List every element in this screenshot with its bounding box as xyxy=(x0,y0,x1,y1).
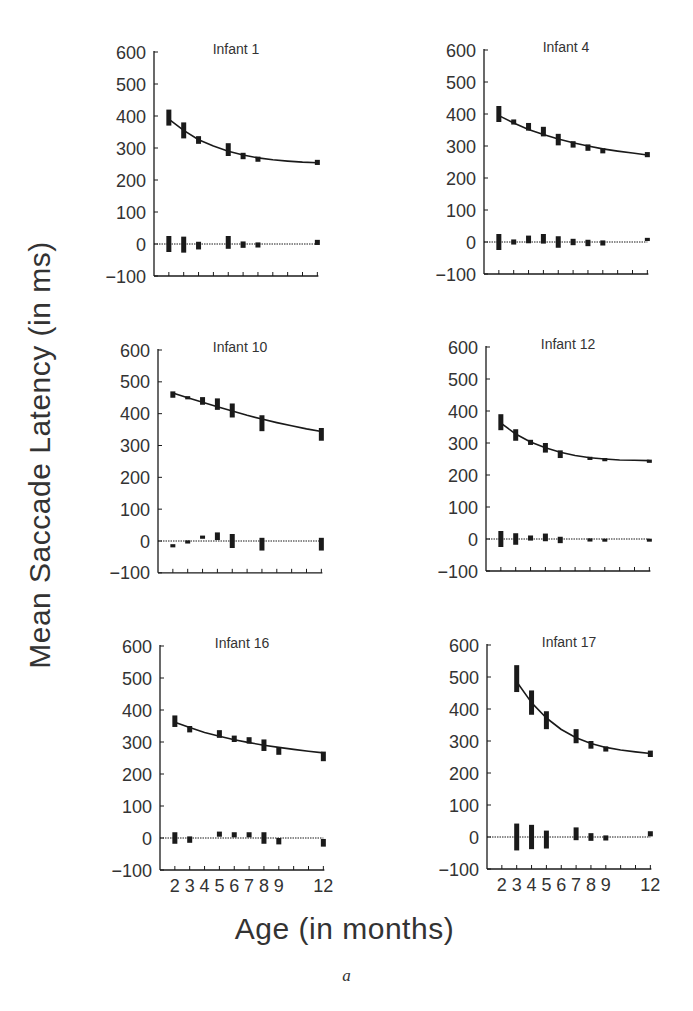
y-tick-label: −100 xyxy=(109,563,150,583)
y-tick-label: 0 xyxy=(140,532,150,552)
residual-error-bar xyxy=(529,825,534,849)
residual-error-bar xyxy=(528,535,533,540)
residual-error-bar xyxy=(217,832,222,837)
y-tick-label: 200 xyxy=(116,171,146,191)
residual-error-bar xyxy=(319,538,324,551)
y-tick-label: 100 xyxy=(449,796,479,816)
residual-error-bar xyxy=(232,832,237,837)
x-tick-label: 3 xyxy=(512,875,522,895)
observed-error-bar xyxy=(647,460,652,463)
observed-error-bar xyxy=(585,144,590,150)
residual-error-bar xyxy=(571,239,576,245)
residual-error-bar xyxy=(226,236,231,249)
residual-error-bar xyxy=(230,534,235,548)
observed-error-bar xyxy=(571,141,576,147)
observed-error-bar xyxy=(166,110,171,126)
x-axis-label-text: Age (in months) xyxy=(235,912,454,945)
y-tick-label: 200 xyxy=(449,764,479,784)
observed-error-bar xyxy=(217,730,222,738)
y-tick-label: 600 xyxy=(448,338,478,358)
fitted-curve xyxy=(173,393,322,432)
residual-error-bar xyxy=(196,242,201,250)
residual-error-bar xyxy=(321,839,326,847)
residual-error-bar xyxy=(647,539,652,542)
chart-panel: Infant 16−100010020030040050060023456789… xyxy=(111,635,333,896)
observed-error-bar xyxy=(498,414,503,430)
y-tick-label: 500 xyxy=(122,669,152,689)
y-tick-label: 0 xyxy=(466,233,476,253)
y-tick-label: 400 xyxy=(122,701,152,721)
y-tick-label: 100 xyxy=(122,797,152,817)
residual-error-bar xyxy=(541,234,546,244)
observed-error-bar xyxy=(230,403,235,417)
observed-error-bar xyxy=(196,136,201,144)
residual-error-bar xyxy=(648,831,653,836)
y-tick-label: 300 xyxy=(120,436,150,456)
observed-error-bar xyxy=(600,148,605,153)
fitted-curve xyxy=(517,682,651,754)
figure-caption: a xyxy=(0,966,693,986)
y-tick-label: −100 xyxy=(438,860,479,880)
y-tick-label: 500 xyxy=(449,668,479,688)
y-tick-label: 500 xyxy=(120,372,150,392)
observed-error-bar xyxy=(226,143,231,156)
residual-error-bar xyxy=(276,838,281,844)
residual-error-bar xyxy=(526,236,531,244)
observed-error-bar xyxy=(603,746,608,751)
residual-error-bar xyxy=(603,835,608,840)
residual-error-bar xyxy=(170,544,175,547)
x-tick-label: 5 xyxy=(214,876,224,896)
residual-error-bar xyxy=(645,238,650,241)
y-tick-label: 300 xyxy=(122,733,152,753)
y-tick-label: 0 xyxy=(468,530,478,550)
y-tick-label: 600 xyxy=(122,637,152,657)
residual-error-bar xyxy=(498,531,503,547)
panel-title: Infant 16 xyxy=(215,635,270,651)
y-tick-label: 400 xyxy=(116,107,146,127)
observed-error-bar xyxy=(319,428,324,441)
chart-panel: Infant 1−1000100200300400500600 xyxy=(105,41,319,287)
y-axis-label-text: Mean Saccade Latency (in ms) xyxy=(23,241,57,669)
y-tick-label: 600 xyxy=(120,341,150,361)
y-tick-label: 100 xyxy=(446,201,476,221)
y-tick-label: 0 xyxy=(142,829,152,849)
y-tick-label: 0 xyxy=(469,828,479,848)
panel-title: Infant 10 xyxy=(213,339,268,355)
observed-error-bar xyxy=(529,690,534,714)
residual-error-bar xyxy=(496,234,501,250)
panel-title: Infant 1 xyxy=(213,41,260,57)
observed-error-bar xyxy=(255,157,260,162)
observed-error-bar xyxy=(544,711,549,729)
residual-error-bar xyxy=(558,537,563,543)
y-tick-label: 500 xyxy=(448,370,478,390)
observed-error-bar xyxy=(526,123,531,131)
observed-error-bar xyxy=(232,736,237,742)
y-tick-label: 500 xyxy=(446,73,476,93)
x-tick-label: 12 xyxy=(640,875,660,895)
x-tick-label: 2 xyxy=(497,875,507,895)
residual-error-bar xyxy=(166,236,171,252)
observed-error-bar xyxy=(514,665,519,692)
y-tick-label: 300 xyxy=(446,137,476,157)
observed-error-bar xyxy=(315,160,320,165)
residual-error-bar xyxy=(544,831,549,849)
y-tick-label: 600 xyxy=(116,43,146,63)
observed-error-bar xyxy=(276,747,281,755)
residual-error-bar xyxy=(255,242,260,247)
y-tick-label: 400 xyxy=(449,700,479,720)
residual-error-bar xyxy=(587,538,592,541)
observed-error-bar xyxy=(496,106,501,122)
y-tick-label: 300 xyxy=(116,139,146,159)
observed-error-bar xyxy=(261,739,266,751)
panel-title: Infant 12 xyxy=(541,336,596,352)
observed-error-bar xyxy=(543,443,548,453)
chart-panel: Infant 12−1000100200300400500600 xyxy=(437,336,651,582)
fitted-curve xyxy=(501,423,650,460)
x-tick-label: 4 xyxy=(200,876,210,896)
panel-title: Infant 4 xyxy=(543,39,590,55)
observed-error-bar xyxy=(602,458,607,461)
residual-error-bar xyxy=(588,833,593,841)
residual-error-bar xyxy=(511,239,516,244)
observed-error-bar xyxy=(185,396,190,399)
y-tick-label: 100 xyxy=(120,500,150,520)
